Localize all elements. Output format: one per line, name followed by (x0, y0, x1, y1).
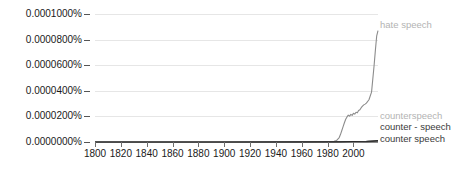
x-tick-mark (95, 142, 96, 147)
x-tick-mark (121, 142, 122, 147)
x-tick-label: 1940 (265, 148, 287, 159)
x-tick-label: 1980 (316, 148, 338, 159)
y-tick-mark (84, 14, 90, 15)
x-tick-mark (328, 142, 329, 147)
x-tick-mark (250, 142, 251, 147)
legend-label-counter-speech[interactable]: counter - speech (380, 121, 451, 132)
x-tick-label: 1920 (239, 148, 261, 159)
x-tick-label: 1820 (110, 148, 132, 159)
x-tick-label: 2000 (342, 148, 364, 159)
y-tick-mark (84, 116, 90, 117)
x-tick-mark (302, 142, 303, 147)
x-tick-mark (173, 142, 174, 147)
y-tick-mark (84, 40, 90, 41)
y-tick-label: 0.0000800% (26, 35, 82, 45)
x-tick-mark (147, 142, 148, 147)
legend-label-counterspeech[interactable]: counterspeech (380, 110, 442, 121)
x-tick-mark (276, 142, 277, 147)
x-tick-mark (353, 142, 354, 147)
x-tick-label: 1840 (136, 148, 158, 159)
y-tick-mark (84, 91, 90, 92)
y-tick-mark (84, 65, 90, 66)
series-line (95, 31, 378, 142)
y-tick-mark (84, 142, 90, 143)
x-tick-label: 1880 (187, 148, 209, 159)
x-tick-mark (198, 142, 199, 147)
y-tick-label: 0.0000600% (26, 60, 82, 70)
y-axis: 0.0000000%0.0000200%0.0000400%0.0000600%… (0, 0, 82, 173)
y-tick-label: 0.0000200% (26, 111, 82, 121)
legend-label-counter-speech[interactable]: counter speech (380, 133, 445, 144)
x-tick-mark (224, 142, 225, 147)
x-tick-label: 1960 (291, 148, 313, 159)
legend-label-hate-speech[interactable]: hate speech (380, 19, 432, 30)
x-tick-label: 1900 (213, 148, 235, 159)
y-tick-label: 0.0000400% (26, 86, 82, 96)
y-tick-label: 0.0001000% (26, 9, 82, 19)
ngram-viewer-chart: 0.0000000%0.0000200%0.0000400%0.0000600%… (0, 0, 468, 173)
x-tick-label: 1800 (84, 148, 106, 159)
x-tick-label: 1860 (161, 148, 183, 159)
y-tick-label: 0.0000000% (26, 137, 82, 147)
